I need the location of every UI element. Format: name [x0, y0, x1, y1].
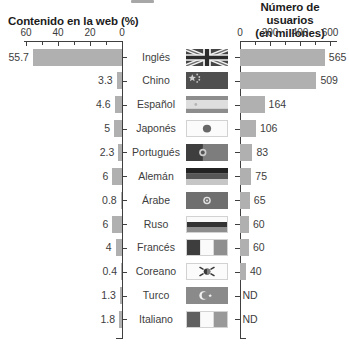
- users-bar: [240, 239, 249, 256]
- flag-spain-icon: [186, 96, 228, 113]
- web-content-value: 4.6: [96, 97, 111, 112]
- language-label: Español: [125, 97, 187, 112]
- right-axis-tick-label: 400: [285, 27, 315, 38]
- web-content-bar: [114, 120, 122, 137]
- users-value: 565: [329, 50, 347, 65]
- left-axis-major-tick: [58, 42, 59, 46]
- web-content-value: 6: [103, 217, 109, 232]
- web-content-value: 3.3: [98, 73, 113, 88]
- web-content-value: 1.3: [101, 288, 116, 303]
- flag-south-korea-icon: [186, 263, 228, 280]
- users-bar: [240, 96, 265, 113]
- users-bar: [240, 168, 251, 185]
- left-axis-tick-label: 0: [107, 27, 137, 38]
- right-row-tick: [235, 296, 240, 297]
- left-axis-minor-tick: [106, 42, 107, 45]
- users-value: 164: [269, 97, 287, 112]
- users-value-no-data: ND: [243, 288, 258, 303]
- users-value: 509: [320, 73, 338, 88]
- left-zero-baseline: [122, 41, 123, 339]
- language-label: Ruso: [125, 217, 187, 232]
- users-value: 75: [255, 169, 267, 184]
- right-axis-major-tick: [270, 42, 271, 46]
- web-content-value: 0.8: [102, 193, 117, 208]
- users-value: 106: [260, 121, 278, 136]
- web-content-value: 0.4: [102, 264, 117, 279]
- left-axis-major-tick: [26, 42, 27, 46]
- web-content-bar: [112, 168, 122, 185]
- users-value: 60: [253, 217, 265, 232]
- right-axis-major-tick: [300, 42, 301, 46]
- users-value: 60: [253, 240, 265, 255]
- flag-turkey-icon: [186, 287, 228, 304]
- right-axis-tick-label: 600: [315, 27, 345, 38]
- flag-china-icon: [186, 72, 228, 89]
- right-axis-tick-label: 0: [225, 27, 255, 38]
- flag-uk-icon: [186, 49, 228, 66]
- users-value-no-data: ND: [243, 312, 258, 327]
- right-axis-minor-tick: [285, 42, 286, 45]
- cropped-text-fragment: [131, 0, 154, 3]
- language-label: Turco: [125, 288, 187, 303]
- left-axis-tick-label: 20: [75, 27, 105, 38]
- language-label: Japonés: [125, 121, 187, 136]
- left-axis-minor-tick: [74, 42, 75, 45]
- right-row-tick: [235, 319, 240, 320]
- left-axis-major-tick: [122, 42, 123, 46]
- right-axis-minor-tick: [315, 42, 316, 45]
- language-label: Alemán: [125, 169, 187, 184]
- left-chart-title: Contenido en la web (%): [8, 15, 139, 27]
- web-content-bar: [112, 216, 122, 233]
- language-label: Chino: [125, 73, 187, 88]
- language-label: Árabe: [125, 193, 187, 208]
- users-bar: [240, 120, 256, 137]
- language-label: Inglés: [125, 50, 187, 65]
- language-label: Italiano: [125, 312, 187, 327]
- flag-portugal-icon: [186, 144, 228, 161]
- flag-arab-league-icon: [186, 192, 228, 209]
- web-content-value: 1.8: [101, 312, 116, 327]
- web-content-value: 2.3: [100, 145, 115, 160]
- users-value: 65: [254, 193, 266, 208]
- users-bar: [240, 144, 252, 161]
- language-label: Coreano: [125, 264, 187, 279]
- flag-germany-icon: [186, 168, 228, 185]
- right-axis-tick-label: 200: [255, 27, 285, 38]
- left-axis-major-tick: [90, 42, 91, 46]
- right-axis-minor-tick: [255, 42, 256, 45]
- users-bar: [240, 216, 249, 233]
- web-content-value: 55.7: [8, 50, 28, 65]
- users-bar: [240, 49, 325, 66]
- flag-japan-icon: [186, 120, 228, 137]
- left-axis-tick-label: 40: [43, 27, 73, 38]
- flag-france-icon: [186, 239, 228, 256]
- right-baseline-foot: [240, 338, 246, 339]
- language-web-content-users-chart: Contenido en la web (%) Número de usuari…: [0, 0, 349, 359]
- language-label: Portugués: [125, 145, 187, 160]
- left-baseline-foot: [116, 338, 122, 339]
- flag-russia-icon: [186, 216, 228, 233]
- users-value: 40: [250, 264, 262, 279]
- left-axis-minor-tick: [42, 42, 43, 45]
- users-bar: [240, 192, 250, 209]
- left-axis-tick-label: 60: [11, 27, 41, 38]
- language-label: Francés: [125, 240, 187, 255]
- right-chart-title-line1: Número de usuarios: [238, 1, 342, 27]
- users-bar: [240, 263, 246, 280]
- right-axis-major-tick: [240, 42, 241, 46]
- flag-italy-icon: [186, 311, 228, 328]
- web-content-value: 5: [104, 121, 110, 136]
- web-content-bar: [33, 49, 122, 66]
- users-value: 83: [256, 145, 268, 160]
- users-bar: [240, 72, 316, 89]
- web-content-bar: [115, 96, 122, 113]
- web-content-value: 6: [103, 169, 109, 184]
- right-axis-major-tick: [330, 42, 331, 46]
- web-content-value: 4: [106, 240, 112, 255]
